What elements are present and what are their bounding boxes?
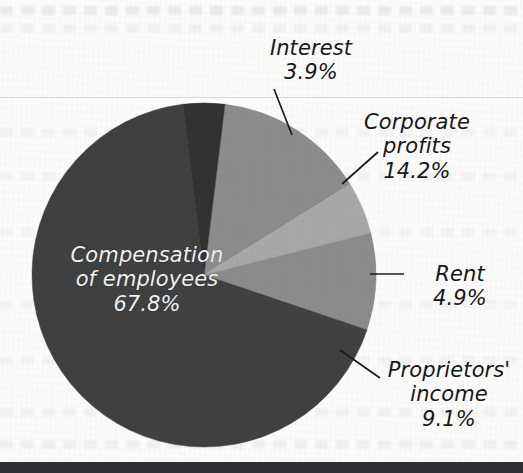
slice-label-rent: Rent 4.9% [408, 262, 512, 311]
slice-label-proprietors-income-name-line1: Proprietors' [378, 358, 520, 382]
slice-label-compensation: Compensation of employees 67.8% [58, 243, 236, 316]
bottom-band [0, 462, 523, 473]
slice-label-proprietors-income: Proprietors' income 9.1% [378, 358, 520, 431]
slice-label-rent-name: Rent [408, 262, 512, 286]
slice-label-corporate-profits-value: 14.2% [352, 159, 482, 183]
slice-label-compensation-value: 67.8% [58, 292, 236, 316]
slice-label-compensation-name-line2: of employees [58, 267, 236, 291]
pie-chart-figure: Interest 3.9% Corporate profits 14.2% Re… [0, 0, 523, 473]
slice-label-proprietors-income-value: 9.1% [378, 407, 520, 431]
slice-label-corporate-profits-name-line1: Corporate [352, 110, 482, 134]
slice-label-interest-value: 3.9% [256, 60, 366, 84]
slice-label-rent-value: 4.9% [408, 286, 512, 310]
slice-label-interest-name: Interest [256, 36, 366, 60]
slice-label-corporate-profits: Corporate profits 14.2% [352, 110, 482, 183]
slice-label-interest: Interest 3.9% [256, 36, 366, 85]
slice-label-compensation-name-line1: Compensation [58, 243, 236, 267]
slice-label-proprietors-income-name-line2: income [378, 382, 520, 406]
slice-label-corporate-profits-name-line2: profits [352, 134, 482, 158]
